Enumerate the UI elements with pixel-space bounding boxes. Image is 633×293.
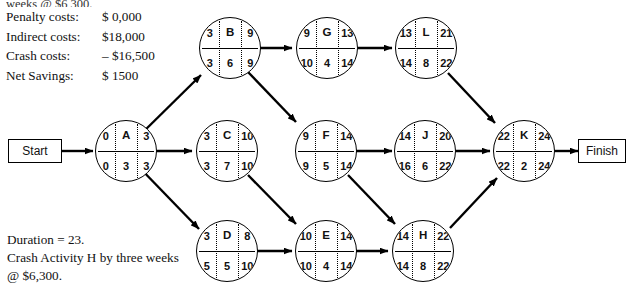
- cost-value-indirect: $18,000: [102, 27, 184, 47]
- node-k-dur: 2: [513, 151, 534, 181]
- note-instruction: Crash Activity H by three weeks @ $6,300…: [7, 249, 187, 285]
- node-divider-vertical-left: [216, 124, 217, 178]
- node-j-ls: 16: [395, 151, 414, 181]
- cut-off-text-line: weeks @ $6,300.: [6, 0, 184, 7]
- node-b-ls: 3: [200, 48, 219, 78]
- node-divider-vertical-right: [238, 224, 239, 278]
- node-e: 10 E 14 10 4 14: [295, 220, 357, 282]
- node-a-ef: 3: [137, 121, 156, 151]
- node-k-ef: 24: [535, 121, 554, 151]
- node-divider-vertical-right: [238, 124, 239, 178]
- node-divider-vertical-right: [337, 124, 338, 178]
- node-a-ls: 0: [96, 151, 115, 181]
- cost-row-crash: Crash costs: – $16,500: [6, 46, 184, 66]
- node-h: 14 H 22 14 8 22: [392, 220, 454, 282]
- node-f-ls: 9: [296, 151, 315, 181]
- node-j-dur: 6: [414, 151, 435, 181]
- node-f-es: 9: [296, 121, 315, 151]
- node-divider-horizontal: [299, 48, 355, 49]
- node-divider-horizontal: [395, 251, 451, 252]
- cost-row-indirect: Indirect costs: $18,000: [6, 27, 184, 47]
- cost-label-net-savings: Net Savings:: [6, 66, 102, 86]
- node-divider-vertical-right: [437, 21, 438, 75]
- notes-block: Duration = 23. Crash Activity H by three…: [7, 231, 187, 285]
- node-k-ls: 22: [494, 151, 513, 181]
- node-l: 13 L 21 14 8 22: [395, 17, 457, 79]
- node-g: 9 G 13 10 4 14: [296, 17, 358, 79]
- node-e-dur: 4: [315, 251, 336, 281]
- node-start-label: Start: [22, 144, 47, 158]
- node-d-lf: 10: [238, 251, 257, 281]
- node-d-ef: 8: [238, 221, 257, 251]
- node-j-name: J: [414, 121, 435, 151]
- node-k: 22 K 24 22 2 24: [493, 120, 555, 182]
- node-d-ls: 5: [197, 251, 216, 281]
- cost-summary: weeks @ $6,300. Penalty costs: $ 0,000 I…: [6, 0, 184, 85]
- node-divider-vertical-right: [241, 21, 242, 75]
- node-f-dur: 5: [315, 151, 336, 181]
- node-g-lf: 14: [338, 48, 357, 78]
- node-h-ef: 22: [434, 221, 453, 251]
- node-f-ef: 14: [337, 121, 356, 151]
- node-divider-vertical-right: [436, 124, 437, 178]
- node-d: 3 D 8 5 5 10: [196, 220, 258, 282]
- node-f-lf: 14: [337, 151, 356, 181]
- node-c-lf: 10: [238, 151, 257, 181]
- node-c: 3 C 10 3 7 10: [196, 120, 258, 182]
- edge-l-k: [448, 73, 495, 123]
- node-divider-vertical-left: [219, 21, 220, 75]
- node-divider-vertical-left: [414, 124, 415, 178]
- node-divider-vertical-left: [513, 124, 514, 178]
- edge-f-h: [348, 175, 395, 224]
- node-divider-horizontal: [398, 48, 454, 49]
- node-b-dur: 6: [219, 48, 240, 78]
- node-h-name: H: [412, 221, 433, 251]
- node-d-name: D: [216, 221, 237, 251]
- node-divider-horizontal: [496, 151, 552, 152]
- node-c-ls: 3: [197, 151, 216, 181]
- node-l-dur: 8: [415, 48, 436, 78]
- node-l-name: L: [415, 18, 436, 48]
- node-b-name: B: [219, 18, 240, 48]
- cost-value-crash: – $16,500: [102, 46, 184, 66]
- node-divider-vertical-left: [315, 224, 316, 278]
- cost-label-crash: Crash costs:: [6, 46, 102, 66]
- node-finish-label: Finish: [586, 144, 618, 158]
- node-h-lf: 22: [434, 251, 453, 281]
- node-divider-horizontal: [98, 151, 154, 152]
- node-c-name: C: [216, 121, 237, 151]
- cost-label-indirect: Indirect costs:: [6, 27, 102, 47]
- node-divider-horizontal: [298, 151, 354, 152]
- node-divider-horizontal: [397, 151, 453, 152]
- node-e-name: E: [315, 221, 336, 251]
- node-e-lf: 14: [337, 251, 356, 281]
- node-divider-vertical-right: [535, 124, 536, 178]
- edge-b-f: [248, 72, 296, 122]
- note-duration: Duration = 23.: [7, 231, 187, 249]
- node-e-ef: 14: [337, 221, 356, 251]
- node-divider-vertical-left: [415, 21, 416, 75]
- cost-row-penalty: Penalty costs: $ 0,000: [6, 7, 184, 27]
- node-a-es: 0: [96, 121, 115, 151]
- node-divider-vertical-left: [315, 124, 316, 178]
- node-f: 9 F 14 9 5 14: [295, 120, 357, 182]
- node-k-lf: 24: [535, 151, 554, 181]
- node-d-es: 3: [197, 221, 216, 251]
- cost-row-net-savings: Net Savings: $ 1500: [6, 66, 184, 86]
- node-g-es: 9: [297, 18, 316, 48]
- node-h-ls: 14: [393, 251, 412, 281]
- node-divider-vertical-right: [337, 224, 338, 278]
- node-b-ef: 9: [241, 18, 260, 48]
- edge-h-k: [450, 178, 497, 228]
- node-b-lf: 9: [241, 48, 260, 78]
- node-g-ls: 10: [297, 48, 316, 78]
- node-c-dur: 7: [216, 151, 237, 181]
- node-j-lf: 22: [436, 151, 455, 181]
- node-divider-vertical-left: [216, 224, 217, 278]
- node-l-ef: 21: [437, 18, 456, 48]
- node-l-es: 13: [396, 18, 415, 48]
- node-b-es: 3: [200, 18, 219, 48]
- node-a: 0 A 3 0 3 3: [95, 120, 157, 182]
- node-g-ef: 13: [338, 18, 357, 48]
- node-a-name: A: [115, 121, 136, 151]
